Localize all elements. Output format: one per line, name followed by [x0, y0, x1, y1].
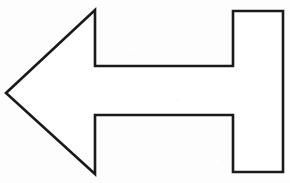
drawing-canvas: [0, 0, 290, 183]
arrow-drawing-svg: [0, 0, 290, 183]
